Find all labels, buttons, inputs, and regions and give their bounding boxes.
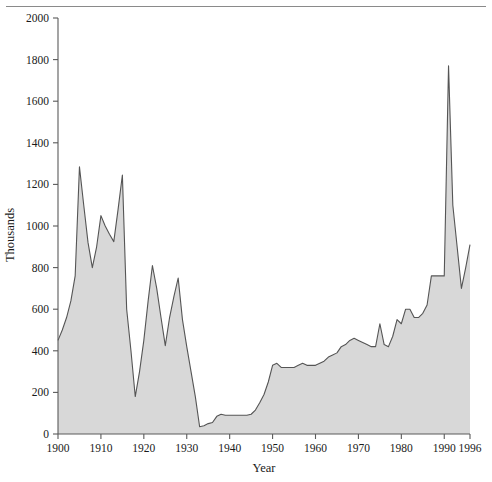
x-tick-label: 1970 [347,442,370,454]
immigration-area-chart: 0200400600800100012001400160018002000 19… [0,0,492,482]
x-axis-tick-labels: 1900191019201930194019501960197019801990… [47,442,482,454]
y-tick-label: 1600 [26,95,49,107]
x-tick-label: 1910 [89,442,112,454]
x-axis-ticks [58,434,470,439]
x-tick-label: 1950 [261,442,284,454]
x-tick-label: 1920 [132,442,155,454]
y-tick-label: 200 [32,386,50,398]
y-tick-label: 800 [32,262,50,274]
area-fill-path [58,66,470,434]
y-axis-ticks [53,18,58,434]
y-tick-label: 1000 [26,220,49,232]
y-axis-title: Thousands [3,208,17,262]
x-tick-label: 1980 [390,442,413,454]
x-tick-label: 1990 [433,442,456,454]
y-tick-label: 1200 [26,178,49,190]
x-tick-label: 1930 [175,442,198,454]
y-tick-label: 2000 [26,12,49,24]
y-tick-label: 1800 [26,54,49,66]
x-tick-label: 1960 [304,442,327,454]
x-tick-label: 1996 [459,442,482,454]
x-tick-label: 1900 [47,442,70,454]
y-tick-label: 400 [32,345,50,357]
y-tick-label: 600 [32,303,50,315]
chart-area-series [58,66,470,434]
y-tick-label: 0 [43,428,49,440]
chart-figure: 0200400600800100012001400160018002000 19… [0,0,492,482]
y-axis-tick-labels: 0200400600800100012001400160018002000 [26,12,49,440]
y-axis: 0200400600800100012001400160018002000 [26,12,58,440]
x-axis: 1900191019201930194019501960197019801990… [47,434,482,454]
x-tick-label: 1940 [218,442,241,454]
x-axis-title: Year [252,461,276,475]
y-tick-label: 1400 [26,137,49,149]
